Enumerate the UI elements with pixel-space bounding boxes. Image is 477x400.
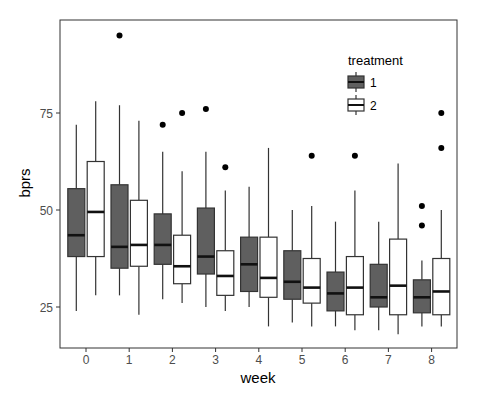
legend-title: treatment [348,53,403,68]
x-tick-label: 4 [255,353,262,367]
y-axis-title: bprs [16,168,33,197]
x-tick-label: 2 [169,353,176,367]
x-tick-label: 0 [83,353,90,367]
chart-canvas: 255075 012345678 week bprs treatment 12 [0,0,477,400]
outlier-point [222,164,228,170]
outlier-point [179,110,185,116]
outlier-point [419,203,425,209]
x-tick-label: 7 [385,353,392,367]
iqr-box [68,189,85,257]
iqr-box [327,272,344,311]
iqr-box [284,251,301,299]
x-tick-label: 8 [428,353,435,367]
x-tick-label: 3 [212,353,219,367]
y-tick-label: 25 [40,301,54,315]
outlier-point [438,145,444,151]
x-tick-label: 5 [299,353,306,367]
x-tick-label: 6 [342,353,349,367]
iqr-box [303,259,320,304]
iqr-box [390,239,407,315]
iqr-box [197,208,214,274]
iqr-box [174,235,191,284]
iqr-box [154,214,171,264]
outlier-point [117,32,123,38]
iqr-box [346,257,363,315]
iqr-box [370,264,387,307]
iqr-box [87,162,104,257]
outlier-point [419,223,425,229]
outlier-point [203,106,209,112]
iqr-box [433,259,450,315]
outlier-point [309,153,315,159]
iqr-box [260,237,277,297]
x-tick-label: 1 [126,353,133,367]
legend-label: 2 [370,99,377,113]
outlier-point [438,110,444,116]
y-tick-label: 75 [40,107,54,121]
iqr-box [130,200,147,266]
y-tick-label: 50 [40,204,54,218]
boxplot-chart: 255075 012345678 week bprs treatment 12 [0,0,477,400]
outlier-point [160,122,166,128]
legend-label: 1 [370,76,377,90]
outlier-point [352,153,358,159]
iqr-box [217,251,234,296]
iqr-box [111,185,128,268]
x-axis-title: week [239,369,276,386]
